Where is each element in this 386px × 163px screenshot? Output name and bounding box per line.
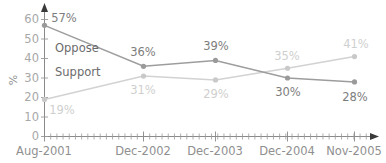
y-tick-label-30: 30 (24, 71, 39, 85)
oppose-point-label-4: 28% (342, 90, 368, 104)
x-tick-label-dec-2002: Dec-2002 (115, 144, 171, 158)
poll-line-chart: 60 50 40 30 20 10 0 % Aug-2001 Dec-2002 … (0, 0, 386, 163)
support-point-label-2: 29% (203, 87, 229, 101)
series-label-oppose: Oppose (55, 41, 99, 55)
oppose-point-label-0: 57% (51, 11, 77, 25)
data-point-marker (213, 58, 218, 63)
data-point-marker (42, 23, 47, 28)
y-axis-arrow-icon (41, 3, 48, 12)
series-label-support: Support (55, 65, 101, 79)
data-point-marker (141, 64, 146, 69)
support-point-label-1: 31% (130, 83, 156, 97)
x-axis-arrow-icon (370, 133, 379, 140)
y-tick-labels: 60 50 40 30 20 10 0 (24, 12, 39, 143)
support-point-label-0: 19% (49, 103, 75, 117)
data-point-marker (352, 79, 357, 84)
chart-canvas: 60 50 40 30 20 10 0 % Aug-2001 Dec-2002 … (0, 0, 386, 163)
data-point-marker (42, 97, 47, 102)
data-point-marker (352, 54, 357, 59)
x-tick-label-dec-2004: Dec-2004 (259, 144, 315, 158)
support-point-label-4: 41% (343, 37, 369, 51)
y-tick-label-10: 10 (24, 110, 39, 124)
x-tick-label-aug-2001: Aug-2001 (16, 144, 72, 158)
data-point-marker (141, 73, 146, 78)
data-point-marker (285, 66, 290, 71)
oppose-point-label-1: 36% (130, 45, 156, 59)
data-point-marker (285, 75, 290, 80)
y-tick-label-60: 60 (24, 12, 39, 26)
support-point-label-3: 35% (274, 49, 300, 63)
oppose-point-label-2: 39% (203, 39, 229, 53)
x-tick-labels: Aug-2001 Dec-2002 Dec-2003 Dec-2004 Nov-… (16, 144, 382, 158)
y-tick-label-0: 0 (32, 129, 39, 143)
y-axis-title: % (7, 75, 20, 85)
oppose-point-label-3: 30% (275, 85, 301, 99)
x-tick-label-nov-2005: Nov-2005 (326, 144, 382, 158)
y-tick-label-40: 40 (24, 51, 39, 65)
y-tick-label-50: 50 (24, 32, 39, 46)
x-tick-label-dec-2003: Dec-2003 (187, 144, 243, 158)
y-tick-label-20: 20 (24, 90, 39, 104)
data-point-marker (213, 77, 218, 82)
